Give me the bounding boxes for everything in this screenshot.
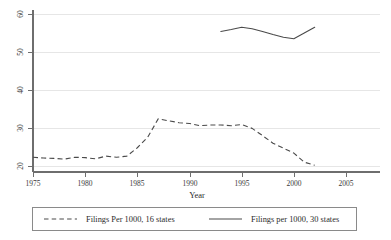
y-tick-label-50: 50 <box>16 48 25 56</box>
chart-legend: Filings Per 1000, 16 states Filings per … <box>33 208 357 231</box>
legend-label-16-states: Filings Per 1000, 16 states <box>86 215 175 224</box>
series-line-filings-30-states <box>221 27 315 38</box>
x-tick-label-2000: 2000 <box>287 179 302 188</box>
y-axis: 60 50 40 30 20 <box>16 10 33 172</box>
x-tick-label-1990: 1990 <box>183 179 198 188</box>
x-tick-label-2005: 2005 <box>339 179 354 188</box>
chart-figure: 60 50 40 30 20 1975 1980 1985 1990 1995 … <box>0 0 391 240</box>
x-axis: 1975 1980 1985 1990 1995 2000 2005 Year <box>26 172 381 200</box>
legend-label-30-states: Filings per 1000, 30 states <box>251 215 339 224</box>
y-tick-label-20: 20 <box>16 162 25 170</box>
y-tick-label-40: 40 <box>16 86 25 94</box>
x-tick-label-1975: 1975 <box>26 179 41 188</box>
x-tick-label-1980: 1980 <box>78 179 93 188</box>
y-tick-label-60: 60 <box>16 10 25 18</box>
y-tick-label-30: 30 <box>16 124 25 132</box>
x-tick-label-1995: 1995 <box>235 179 250 188</box>
gridlines <box>33 14 380 166</box>
x-axis-title: Year <box>189 190 205 200</box>
x-tick-label-1985: 1985 <box>130 179 145 188</box>
series-line-filings-16-states <box>33 119 315 165</box>
plot-series <box>33 27 315 165</box>
line-chart: 60 50 40 30 20 1975 1980 1985 1990 1995 … <box>0 0 391 240</box>
